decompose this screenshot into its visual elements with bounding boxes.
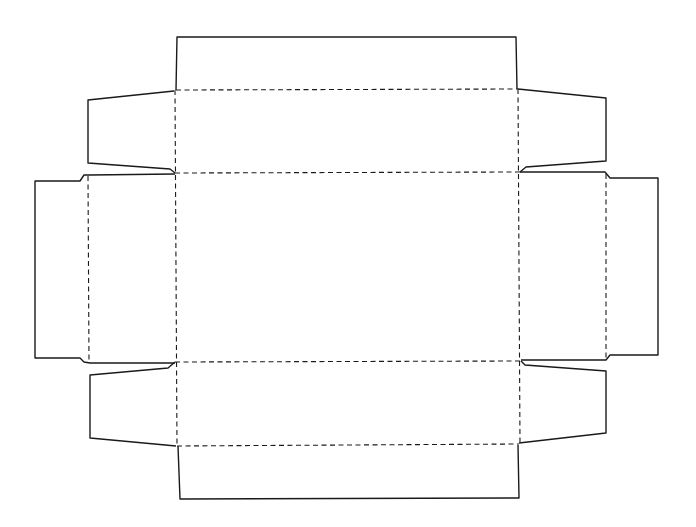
left-wall-and-flap (35, 174, 175, 363)
corner-tab-bottom-right (519, 361, 606, 443)
fold-top-flap (176, 89, 518, 90)
dieline-svg (0, 0, 696, 527)
right-wall-and-flap (520, 172, 658, 360)
corner-tab-top-left (88, 91, 175, 173)
bottom-flap (178, 445, 519, 499)
fold-bottom-flap (177, 444, 519, 446)
fold-bottom-wall (175, 361, 521, 362)
top-flap (176, 37, 517, 90)
fold-left-flap (88, 176, 89, 362)
fold-right-body (518, 89, 520, 444)
corner-tab-bottom-left (90, 362, 176, 446)
corner-tab-top-right (518, 89, 606, 172)
dieline-diagram (0, 0, 696, 527)
fold-lines (88, 89, 606, 446)
fold-top-wall (175, 172, 520, 173)
fold-left-body (175, 90, 177, 446)
